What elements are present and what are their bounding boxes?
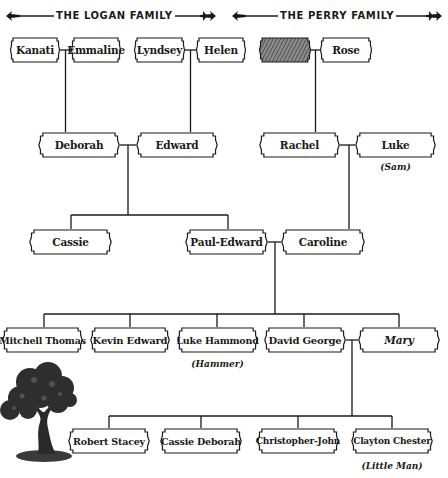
person-name: Rachel [280,139,319,151]
person-name: Paul-Edward [190,236,262,248]
person-cassie-deborah: Cassie Deborah [160,428,242,454]
person-mary: Mary [358,327,440,353]
person-name: Luke Hammond [176,335,258,346]
person-name: Cassie Deborah [161,436,241,447]
person-name: Clayton Chester [353,436,431,446]
person-name: Mitchell Thomas [0,335,86,346]
nickname-hammer: (Hammer) [177,359,258,369]
person-name: Luke [381,139,409,151]
person-luke: Luke [355,132,436,158]
family-tree-diagram: THE LOGAN FAMILY THE PERRY FAMILY Kanati… [0,0,448,478]
person-emmaline: Emmaline [71,37,121,63]
person-name: Christopher-John [256,436,340,446]
person-edward: Edward [136,132,218,158]
person-deborah: Deborah [38,132,120,158]
person-name: Edward [156,139,199,151]
person-caroline: Caroline [281,229,365,255]
person-name: Kanati [16,44,54,56]
person-name: Cassie [52,236,88,248]
person-david-george: David George [264,327,346,353]
person-name: Emmaline [67,44,125,56]
nickname-sam: (Sam) [355,162,436,172]
person-rachel: Rachel [259,132,340,158]
person-name: Helen [204,44,238,56]
person-christopher-john: Christopher-John [257,428,339,454]
perry-family-header: THE PERRY FAMILY [230,8,444,24]
person-kanati: Kanati [10,37,60,63]
person-cassie: Cassie [29,229,112,255]
person-name: Robert Stacey [73,436,145,447]
person-name: David George [268,335,341,346]
person-helen: Helen [196,37,246,63]
tree-illustration-icon [0,362,78,466]
logan-family-title: THE LOGAN FAMILY [54,8,175,24]
person-clayton-chester: Clayton Chester [351,428,433,454]
logan-family-header: THE LOGAN FAMILY [4,8,218,24]
person-name: Caroline [299,236,347,248]
person-unknown-hatched [259,37,311,63]
nickname-little-man: (Little Man) [351,461,433,471]
person-robert-stacey: Robert Stacey [68,428,150,454]
person-kevin-edward: Kevin Edward [90,327,170,353]
person-name: Rose [332,44,360,56]
person-name: Mary [384,334,413,346]
perry-family-title: THE PERRY FAMILY [278,8,396,24]
person-name: Deborah [55,139,104,151]
person-name: Kevin Edward [93,335,168,346]
person-rose: Rose [320,37,372,63]
person-paul-edward: Paul-Edward [185,229,268,255]
person-name: Lyndsey [137,44,182,56]
person-luke-hammond: Luke Hammond [177,327,258,353]
person-lyndsey: Lyndsey [134,37,185,63]
person-mitchell-thomas: Mitchell Thomas [2,327,83,353]
